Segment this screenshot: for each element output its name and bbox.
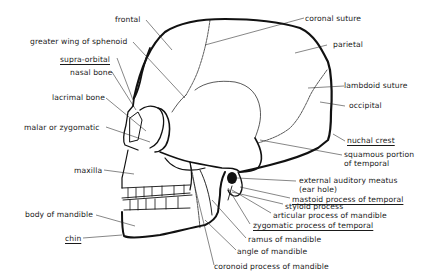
label-nuchal-crest: nuchal crest [347, 136, 395, 145]
label-supra-orbital: supra-orbital [60, 55, 110, 64]
label-chin: chin [65, 234, 81, 243]
label-ear-hole: (ear hole) [299, 185, 337, 194]
label-lacrimal-bone: lacrimal bone [52, 93, 105, 102]
label-squamous-portion: squamous portion [344, 150, 414, 159]
label-styloid-process: styloid process [285, 202, 343, 211]
label-body-of-mandible: body of mandible [25, 210, 93, 219]
label-nasal-bone: nasal bone [70, 68, 113, 77]
label-maxilla: maxilla [74, 166, 102, 175]
label-parietal: parietal [333, 40, 363, 49]
skull-diagram: frontal greater wing of sphenoid supra-o… [0, 0, 436, 278]
label-articular-process: articular process of mandible [273, 211, 387, 220]
label-coronal-suture: coronal suture [305, 14, 361, 23]
label-angle-of-mandible: angle of mandible [237, 247, 307, 256]
label-of-temporal: of temporal [344, 159, 389, 168]
label-coronoid-process: coronoid process of mandible [214, 262, 329, 271]
label-zygomatic-process-of-temporal: zygomatic process of temporal [253, 221, 373, 230]
label-frontal: frontal [115, 15, 141, 24]
label-greater-wing-of-sphenoid: greater wing of sphenoid [30, 37, 127, 46]
label-lambdoid-suture: lambdoid suture [344, 81, 407, 90]
label-external-auditory-meatus: external auditory meatus [299, 176, 398, 185]
label-occipital: occipital [349, 101, 382, 110]
label-malar-or-zygomatic: malar or zygomatic [24, 123, 100, 132]
label-ramus-of-mandible: ramus of mandible [248, 235, 321, 244]
